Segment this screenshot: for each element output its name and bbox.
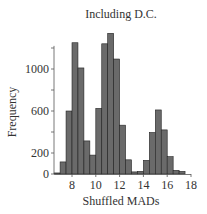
histogram-bar xyxy=(161,130,167,174)
x-tick-label: 12 xyxy=(114,178,126,192)
x-tick-label: 10 xyxy=(90,178,102,192)
histogram-bar xyxy=(114,59,120,174)
histogram-bar xyxy=(78,68,84,174)
y-tick-label: 200 xyxy=(31,146,49,160)
y-tick-label: 0 xyxy=(43,167,49,181)
x-axis: 81012141618 xyxy=(54,174,197,192)
histogram-bar xyxy=(84,141,90,174)
chart-title: Including D.C. xyxy=(85,7,157,21)
histogram-chart: Including D.C. 02006001000 81012141618 S… xyxy=(0,0,207,214)
histogram-bar xyxy=(137,171,143,174)
histogram-bar xyxy=(167,157,173,174)
histogram-bar xyxy=(54,173,60,174)
y-axis-label: Frequency xyxy=(5,87,19,138)
y-tick-label: 1000 xyxy=(25,62,49,76)
x-tick-label: 14 xyxy=(137,178,149,192)
x-tick-label: 16 xyxy=(161,178,173,192)
histogram-bar xyxy=(155,110,161,174)
x-tick-label: 8 xyxy=(69,178,75,192)
y-axis: 02006001000 xyxy=(25,46,54,181)
histogram-bar xyxy=(90,155,96,174)
histogram-bar xyxy=(102,44,108,174)
x-axis-label: Shuffled MADs xyxy=(83,194,160,208)
histogram-bar xyxy=(149,133,155,174)
histogram-bar xyxy=(132,172,138,174)
x-tick-label: 18 xyxy=(185,178,197,192)
histogram-bar xyxy=(120,125,126,174)
histogram-bar xyxy=(126,160,132,174)
histogram-bar xyxy=(72,43,78,174)
histogram-bar xyxy=(60,162,66,174)
histogram-bar xyxy=(143,160,149,174)
y-tick-label: 600 xyxy=(31,104,49,118)
histogram-bar xyxy=(66,111,72,174)
histogram-bar xyxy=(179,171,185,174)
histogram-bar xyxy=(96,108,102,174)
histogram-bar xyxy=(173,170,179,174)
bars-group xyxy=(54,33,185,174)
histogram-bar xyxy=(108,33,114,174)
